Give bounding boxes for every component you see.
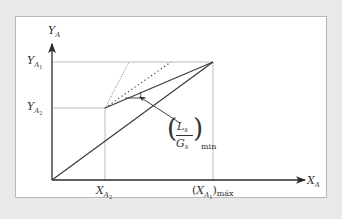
x-tick-label-xa1-max: (XA1)máx: [192, 185, 234, 200]
fraction-numerator: Ls: [177, 121, 188, 134]
fraction-bar: [176, 135, 193, 136]
ls-gs-min-annotation: ( Ls Gs ) min: [167, 118, 217, 154]
operating-line-coarse-dotted: [105, 62, 171, 108]
operating-line-fine-dotted: [105, 62, 129, 108]
x-tick-label-xa2: XA2: [96, 185, 112, 200]
y-tick-label-ya2: YA2: [27, 101, 43, 116]
fraction-denominator: Gs: [176, 138, 188, 151]
y-tick-label-ya1: YA1: [27, 55, 43, 70]
diagram-page: YA XA YA1 YA2 XA2 (XA1)máx ( Ls Gs ) min: [0, 0, 342, 219]
right-paren: ): [193, 115, 203, 141]
fraction-subscript-min: min: [201, 142, 216, 151]
x-axis-label: XA: [307, 175, 320, 189]
y-axis-label: YA: [48, 25, 60, 39]
